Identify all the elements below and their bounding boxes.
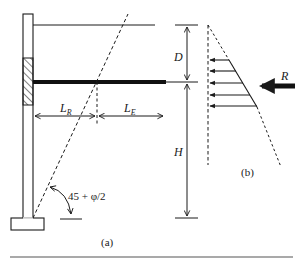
anchored-sheet-pile-diagram: LR LE 45 + φ/2 (a) D H R (b)	[0, 0, 302, 260]
lr-label: LR	[59, 101, 72, 117]
footing	[11, 218, 44, 230]
pressure-envelope-dashed	[208, 25, 229, 60]
le-label: LE	[123, 101, 136, 117]
pressure-envelope-dashed-lower	[257, 107, 281, 167]
depth-label: D	[173, 50, 183, 64]
resultant-label: R	[280, 69, 289, 83]
caption-b: (b)	[241, 166, 254, 179]
panel-b: R (b)	[208, 25, 295, 179]
anchor-zone-hatch	[23, 58, 33, 105]
panel-a: LR LE 45 + φ/2 (a)	[11, 14, 166, 249]
angle-label: 45 + φ/2	[68, 190, 106, 202]
height-label: H	[173, 145, 184, 159]
depth-height-dimensions: D H	[165, 25, 198, 218]
caption-a: (a)	[101, 236, 114, 249]
sheet-pile-wall	[23, 14, 33, 218]
